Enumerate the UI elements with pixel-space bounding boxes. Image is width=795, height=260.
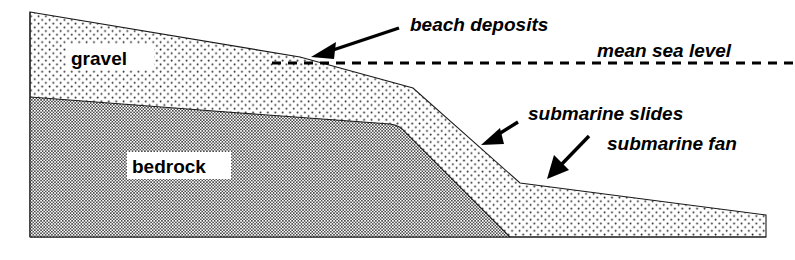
beach-deposits-arrow-shaft — [327, 28, 399, 52]
cross-section-figure: gravel bedrock beach deposits mean sea l… — [0, 0, 795, 260]
gravel-label-group: gravel — [66, 44, 154, 70]
bedrock-label-group: bedrock — [127, 152, 231, 179]
beach-deposits-label: beach deposits — [410, 14, 548, 35]
beach-deposits-arrow-head — [311, 42, 336, 59]
mean-sea-level-label: mean sea level — [597, 40, 732, 61]
submarine-fan-annotation: submarine fan — [547, 133, 737, 179]
submarine-slides-arrow-head — [481, 128, 504, 145]
cross-section-svg: gravel bedrock beach deposits mean sea l… — [0, 0, 795, 260]
bedrock-label: bedrock — [132, 156, 206, 177]
submarine-fan-arrow-shaft — [560, 136, 589, 166]
submarine-slides-label: submarine slides — [528, 103, 683, 124]
beach-deposits-annotation: beach deposits — [311, 14, 548, 59]
submarine-fan-label: submarine fan — [607, 133, 737, 154]
gravel-label: gravel — [71, 48, 127, 69]
